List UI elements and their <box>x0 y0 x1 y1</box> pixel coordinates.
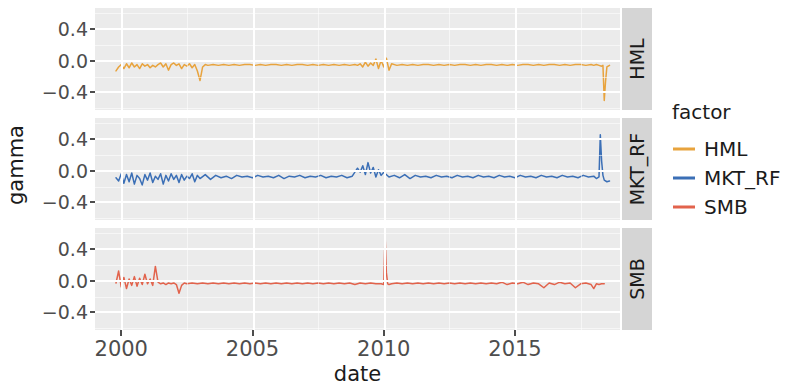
y-tick-mark <box>90 28 95 30</box>
gridline-minor-horizontal <box>95 218 620 219</box>
legend: factor HMLMKT_RFSMB <box>672 100 787 221</box>
y-tick-mark <box>90 60 95 62</box>
y-ticklabels-smb: 0.40.0−0.4 <box>28 228 88 330</box>
x-tick-mark <box>383 330 385 336</box>
gridline-major-vertical <box>253 228 255 330</box>
gridline-major-horizontal <box>95 280 620 282</box>
x-tick-mark <box>514 330 516 336</box>
x-axis: 2000200520102015 <box>95 330 620 360</box>
gridline-major-horizontal <box>95 28 620 30</box>
x-axis-title-text: date <box>334 362 381 386</box>
gridline-minor-horizontal <box>95 265 620 266</box>
y-tick-label: 0.0 <box>58 270 88 292</box>
y-tick-mark <box>90 91 95 93</box>
gridline-major-vertical <box>515 228 517 330</box>
x-tick-label: 2010 <box>357 337 410 361</box>
y-tick-label: 0.4 <box>58 18 88 40</box>
y-tick-label: −0.4 <box>42 301 88 323</box>
chart-root: gamma 0.40.0−0.4 HML 0.40.0−0.4 MKT_RF 0… <box>0 0 789 392</box>
gridline-minor-vertical <box>581 228 582 330</box>
y-tick-label: 0.4 <box>58 128 88 150</box>
y-tick-label: 0.0 <box>58 160 88 182</box>
facet-strip-label: HML <box>626 38 648 79</box>
gridline-minor-vertical <box>449 118 450 220</box>
x-tick-label: 2000 <box>95 337 148 361</box>
gridline-minor-horizontal <box>95 297 620 298</box>
gridline-minor-horizontal <box>95 155 620 156</box>
gridline-minor-horizontal <box>95 77 620 78</box>
gridline-minor-vertical <box>318 8 319 110</box>
legend-item[interactable]: SMB <box>672 192 787 221</box>
gridline-minor-horizontal <box>95 187 620 188</box>
y-tick-label: 0.0 <box>58 50 88 72</box>
y-tick-mark <box>90 311 95 313</box>
facet-strip-label: MKT_RF <box>626 133 648 206</box>
y-tick-mark <box>90 280 95 282</box>
legend-title: factor <box>672 100 787 124</box>
y-tick-label: −0.4 <box>42 191 88 213</box>
legend-label: HML <box>704 137 747 161</box>
gridline-minor-vertical <box>318 228 319 330</box>
gridline-minor-horizontal <box>95 108 620 109</box>
gridline-minor-vertical <box>318 118 319 220</box>
x-tick-label: 2005 <box>226 337 279 361</box>
legend-items: HMLMKT_RFSMB <box>672 134 787 221</box>
facet-strip-mkt-rf: MKT_RF <box>622 118 652 220</box>
series-path <box>116 58 610 100</box>
plot-panel-mkt-rf <box>95 118 620 220</box>
facet-row-hml: 0.40.0−0.4 HML <box>0 8 789 110</box>
gridline-minor-horizontal <box>95 45 620 46</box>
gridline-major-vertical <box>253 8 255 110</box>
y-tick-mark <box>90 138 95 140</box>
gridline-major-vertical <box>121 118 123 220</box>
facet-row-smb: 0.40.0−0.4 SMB <box>0 228 789 330</box>
y-tick-mark <box>90 170 95 172</box>
gridline-minor-vertical <box>187 118 188 220</box>
gridline-minor-vertical <box>187 8 188 110</box>
y-tick-mark <box>90 248 95 250</box>
facet-row-mkt-rf: 0.40.0−0.4 MKT_RF <box>0 118 789 220</box>
series-path <box>116 135 610 185</box>
gridline-minor-vertical <box>449 8 450 110</box>
gridline-major-horizontal <box>95 138 620 140</box>
y-tick-label: 0.4 <box>58 238 88 260</box>
gridline-major-horizontal <box>95 91 620 93</box>
legend-key-line-icon <box>672 196 696 218</box>
gridline-major-horizontal <box>95 170 620 172</box>
gridline-minor-vertical <box>449 228 450 330</box>
gridline-major-vertical <box>253 118 255 220</box>
legend-item[interactable]: HML <box>672 134 787 163</box>
x-tick-mark <box>120 330 122 336</box>
gridline-major-vertical <box>384 118 386 220</box>
gridline-minor-vertical <box>187 228 188 330</box>
gridline-minor-vertical <box>581 8 582 110</box>
y-ticklabels-hml: 0.40.0−0.4 <box>28 8 88 110</box>
gridline-minor-vertical <box>581 118 582 220</box>
facet-strip-label: SMB <box>626 258 648 300</box>
y-ticklabels-mkt-rf: 0.40.0−0.4 <box>28 118 88 220</box>
gridline-minor-horizontal <box>95 233 620 234</box>
gridline-major-horizontal <box>95 201 620 203</box>
gridline-major-vertical <box>515 8 517 110</box>
gridline-major-vertical <box>121 8 123 110</box>
gridline-major-vertical <box>384 8 386 110</box>
gridline-major-vertical <box>121 228 123 330</box>
gridline-minor-horizontal <box>95 13 620 14</box>
x-tick-mark <box>252 330 254 336</box>
plot-panel-hml <box>95 8 620 110</box>
gridline-major-horizontal <box>95 248 620 250</box>
facet-strip-smb: SMB <box>622 228 652 330</box>
legend-item[interactable]: MKT_RF <box>672 163 787 192</box>
x-tick-label: 2015 <box>488 337 541 361</box>
legend-label: SMB <box>704 195 748 219</box>
legend-label: MKT_RF <box>704 166 780 190</box>
plot-panel-smb <box>95 228 620 330</box>
gridline-major-horizontal <box>95 60 620 62</box>
legend-key-line-icon <box>672 167 696 189</box>
x-axis-title: date <box>95 362 620 386</box>
gridline-major-vertical <box>384 228 386 330</box>
y-tick-mark <box>90 201 95 203</box>
legend-key-line-icon <box>672 138 696 160</box>
gridline-major-vertical <box>515 118 517 220</box>
gridline-minor-horizontal <box>95 123 620 124</box>
